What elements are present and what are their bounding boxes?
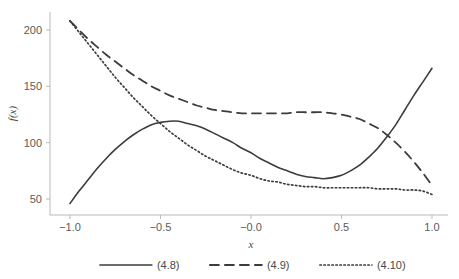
- x-tick-label: −1.0: [59, 221, 81, 233]
- axis-ticks: [46, 30, 432, 219]
- y-tick-label: 50: [30, 193, 42, 205]
- chart-series: [70, 21, 432, 204]
- chart-figure: 50100150200−1.0−0.5−0.00.51.0 xf(x) (4.8…: [0, 0, 459, 279]
- y-tick-label: 100: [24, 137, 42, 149]
- series-line-48: [70, 68, 432, 203]
- series-line-410: [70, 21, 432, 195]
- y-tick-label: 150: [24, 80, 42, 92]
- x-tick-label: −0.5: [150, 221, 172, 233]
- x-tick-label: 1.0: [424, 221, 439, 233]
- series-line-49: [70, 21, 432, 185]
- line-chart: 50100150200−1.0−0.5−0.00.51.0 xf(x) (4.8…: [0, 0, 459, 279]
- axis-titles: xf(x): [6, 106, 254, 250]
- chart-axes: [50, 12, 448, 215]
- legend-label: (4.10): [377, 259, 406, 271]
- x-axis-title: x: [248, 238, 254, 250]
- legend-label: (4.9): [267, 259, 290, 271]
- y-tick-label: 200: [24, 24, 42, 36]
- x-tick-label: −0.0: [240, 221, 262, 233]
- chart-legend: (4.8)(4.9)(4.10): [100, 259, 406, 271]
- legend-label: (4.8): [157, 259, 180, 271]
- x-tick-label: 0.5: [334, 221, 349, 233]
- y-axis-title: f(x): [6, 106, 19, 122]
